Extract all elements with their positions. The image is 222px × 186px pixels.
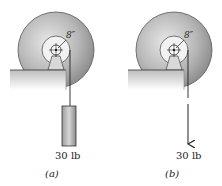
load-label-b: 30 lb	[176, 150, 202, 161]
weight	[62, 106, 76, 146]
radius-label-a: 8″	[66, 30, 75, 40]
caption-a: (a)	[45, 168, 59, 179]
radius-label-b: 8″	[184, 30, 193, 40]
ledge	[128, 70, 184, 90]
figure-b	[128, 12, 212, 144]
load-label-a: 30 lb	[55, 150, 81, 161]
ledge	[10, 70, 66, 90]
figure-a	[10, 12, 94, 146]
caption-b: (b)	[165, 168, 179, 179]
